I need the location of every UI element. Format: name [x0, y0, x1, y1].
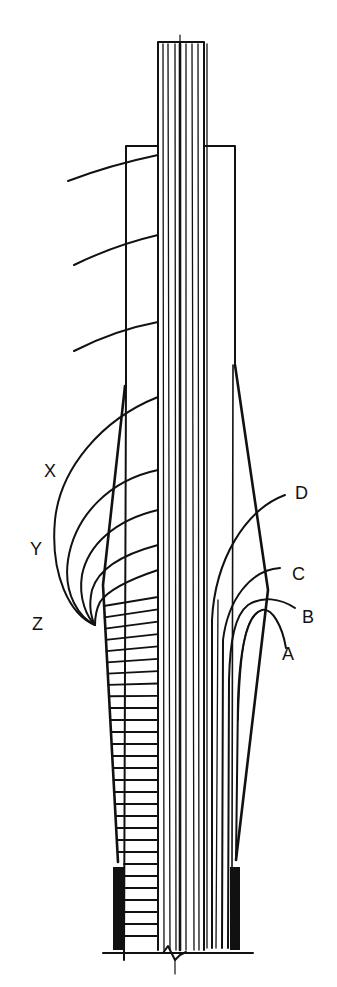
label-y: Y — [30, 539, 42, 559]
label-b: B — [302, 607, 314, 627]
label-x: X — [44, 461, 56, 481]
label-d: D — [295, 483, 308, 503]
flow-line-diagram: X Y Z D C B A — [0, 0, 337, 987]
label-c: C — [292, 564, 305, 584]
labels-right: D C B A — [282, 483, 314, 664]
central-shaft — [158, 35, 204, 950]
right-flow-lines — [207, 44, 295, 948]
labels-left: X Y Z — [30, 461, 56, 634]
left-flow-lines — [54, 397, 158, 625]
upper-left-flow-lines — [68, 155, 158, 351]
label-a: A — [282, 644, 294, 664]
label-z: Z — [32, 614, 43, 634]
bottom-collar — [103, 867, 253, 974]
